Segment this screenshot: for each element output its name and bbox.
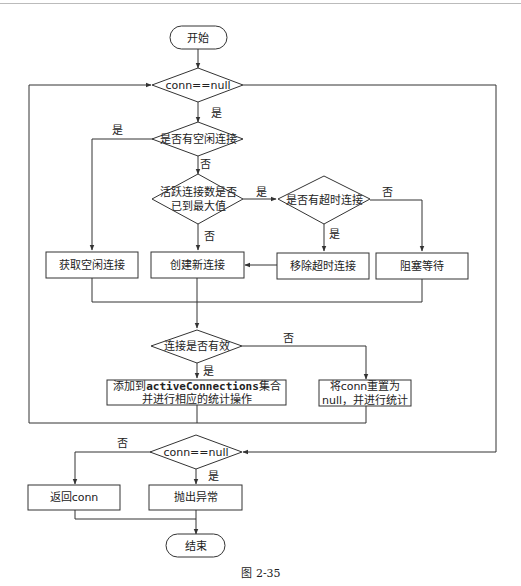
process-label: 创建新连接 — [170, 258, 225, 272]
edge-merge-bar — [92, 278, 422, 302]
end-node: 结束 — [166, 534, 225, 557]
process-add-active: 添加到activeConnections集合 并进行相应的统计操作 — [107, 379, 286, 406]
flowchart: 开始 conn==null 是否有空闲连接 活跃连接数是否 已到最大值 是否有超… — [0, 0, 521, 586]
process-label-line1: 将conn重置为 — [330, 379, 401, 393]
edge-idle-getidle — [92, 139, 153, 250]
edge-label-timeout-yes: 是 — [329, 228, 340, 241]
process-reset-conn: 将conn重置为 null，并进行统计 — [319, 379, 411, 407]
process-remove-timeout: 移除超时连接 — [277, 253, 369, 279]
decision-label: 是否有超时连接 — [286, 193, 363, 207]
process-label: 移除超时连接 — [290, 259, 356, 273]
process-label-line2: 并进行相应的统计操作 — [142, 392, 252, 406]
decision-label: conn==null — [165, 79, 230, 92]
process-label: 返回conn — [50, 491, 99, 504]
process-label: 获取空闲连接 — [59, 258, 125, 272]
process-label: 阻塞等待 — [400, 259, 444, 273]
decision-conn-null-2: conn==null — [150, 435, 242, 469]
decision-label: 连接是否有效 — [164, 339, 230, 353]
process-throw-exception: 抛出异常 — [149, 485, 242, 510]
decision-label-line2: 已到最大值 — [171, 199, 226, 213]
process-block-wait: 阻塞等待 — [376, 253, 468, 279]
figure-caption: 图 2-35 — [241, 567, 280, 580]
process-label-line2: null，并进行统计 — [322, 393, 408, 407]
process-label-line1: 添加到activeConnections集合 — [113, 379, 281, 393]
start-label: 开始 — [187, 31, 209, 45]
edge-label-valid-no: 否 — [283, 332, 294, 345]
edge-label-cond1-yes: 是 — [211, 107, 222, 120]
decision-connection-valid: 连接是否有效 — [151, 330, 242, 363]
edge-label-cond2-no: 否 — [117, 437, 128, 450]
decision-max-active: 活跃连接数是否 已到最大值 — [152, 174, 243, 224]
edge-label-max-yes: 是 — [256, 186, 267, 199]
edge-label-idle-no: 否 — [200, 158, 211, 171]
edge-label-cond2-yes: 是 — [208, 470, 219, 483]
decision-label: conn==null — [163, 446, 228, 459]
decision-idle-connection: 是否有空闲连接 — [152, 122, 243, 156]
decision-timeout-connection: 是否有超时连接 — [278, 176, 370, 224]
process-create-new: 创建新连接 — [151, 252, 244, 278]
decision-label: 是否有空闲连接 — [160, 132, 237, 146]
edge-timeout-block — [370, 200, 422, 251]
end-label: 结束 — [185, 540, 207, 553]
process-label: 抛出异常 — [174, 490, 218, 504]
edge-cond2-return — [75, 452, 151, 484]
edge-label-valid-yes: 是 — [203, 365, 214, 378]
process-return-conn: 返回conn — [28, 485, 120, 510]
start-node: 开始 — [170, 26, 227, 49]
decision-conn-null-1: conn==null — [152, 68, 243, 102]
edge-label-max-no: 否 — [204, 230, 215, 243]
decision-label-line1: 活跃连接数是否 — [160, 185, 237, 199]
edge-label-idle-yes: 是 — [112, 124, 123, 137]
edge-valid-reset — [242, 346, 366, 379]
edge-label-timeout-no: 否 — [382, 186, 393, 199]
process-get-idle: 获取空闲连接 — [46, 252, 138, 278]
